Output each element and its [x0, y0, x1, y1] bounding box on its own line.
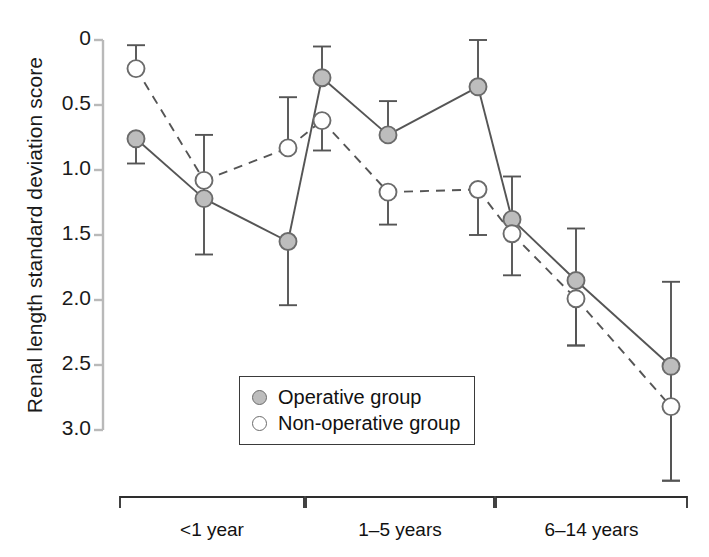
series-markers-layer — [128, 60, 680, 415]
group-label-2: 6–14 years — [496, 519, 687, 541]
series-lines-layer — [136, 69, 671, 407]
legend-label-operative: Operative group — [278, 386, 421, 409]
renal-length-chart-figure: Renal length standard deviation score 00… — [0, 0, 709, 557]
filled-circle-marker-icon — [252, 390, 267, 405]
group-brackets-layer — [120, 497, 687, 508]
group-label-1: 1–5 years — [306, 519, 494, 541]
plot-area — [0, 0, 709, 557]
y-axis-line — [94, 40, 103, 430]
legend-item-non-operative: Non-operative group — [252, 410, 460, 436]
group-label-0: <1 year — [120, 519, 304, 541]
open-circle-marker-icon — [252, 416, 267, 431]
legend-item-operative: Operative group — [252, 384, 460, 410]
legend-label-non-operative: Non-operative group — [278, 412, 460, 435]
chart-legend: Operative group Non-operative group — [239, 376, 475, 445]
